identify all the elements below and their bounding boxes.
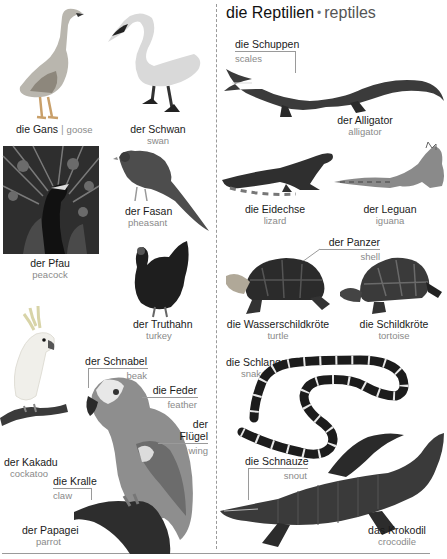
feather-leader-line: [142, 397, 198, 398]
goose-english: goose: [67, 124, 93, 135]
scales-leader-line: [235, 51, 295, 52]
alligator-illustration: [222, 55, 447, 120]
cockatoo-english: cockatoo: [10, 468, 48, 480]
turtle-shell-german: der Panzer: [320, 236, 380, 248]
iguana-illustration: [330, 138, 447, 194]
tortoise-german: die Schildkröte: [348, 318, 440, 330]
tortoise-illustration: [338, 252, 447, 316]
lizard-english: lizard: [240, 215, 310, 227]
cockatoo-illustration: [0, 300, 70, 425]
tortoise-english: tortoise: [348, 330, 440, 342]
pheasant-german: der Fasan: [125, 205, 172, 217]
parrot-wing-english: wing: [170, 445, 208, 457]
cockatoo-german: der Kakadu: [4, 456, 58, 468]
turkey-illustration: [125, 237, 195, 317]
page-bottom-rule: [2, 553, 430, 554]
pheasant-english: pheasant: [128, 217, 167, 229]
parrot-wing-german-line1: der: [170, 418, 208, 430]
peacock-german: der Pfau: [20, 257, 80, 269]
claw-leader-line: [53, 488, 91, 489]
goose-german: die Gans: [16, 123, 58, 135]
parrot-wing-german-line2: Flügel: [170, 430, 208, 442]
swan-illustration: [102, 8, 207, 118]
lizard-german: die Eidechse: [240, 203, 310, 215]
parrot-german: der Papagei: [22, 524, 79, 536]
alligator-scales-german: die Schuppen: [235, 38, 299, 50]
parrot-claw-english: claw: [53, 490, 72, 502]
goose-illustration: [10, 5, 90, 120]
turtle-english: turtle: [222, 330, 334, 342]
peacock-english: peacock: [20, 269, 80, 281]
section-title-english: reptiles: [324, 4, 376, 21]
iguana-german: der Leguan: [355, 203, 425, 215]
parrot-feather-english: feather: [140, 399, 197, 411]
iguana-english: iguana: [355, 215, 425, 227]
turtle-illustration: [222, 250, 334, 316]
crocodile-german: das Krokodil: [357, 524, 437, 536]
goose-label: die Gans | goose: [16, 123, 93, 136]
parrot-feather-german: die Feder: [140, 384, 197, 396]
alligator-german: der Alligator: [325, 114, 405, 126]
wing-leader-line: [158, 443, 208, 444]
column-divider: [216, 4, 217, 549]
section-title-german: die Reptilien: [226, 4, 314, 21]
turkey-german: der Truthahn: [133, 318, 193, 330]
parrot-beak-english: beak: [85, 370, 147, 382]
goose-separator: |: [61, 123, 64, 135]
swan-german: der Schwan: [128, 123, 188, 135]
parrot-claw-german: die Kralle: [53, 475, 97, 487]
alligator-english: alligator: [325, 126, 405, 138]
crocodile-english: crocodile: [357, 536, 437, 548]
bullet-separator: •: [314, 6, 324, 20]
section-title: die Reptilien•reptiles: [226, 3, 376, 23]
parrot-english: parrot: [36, 536, 61, 548]
turkey-english: turkey: [146, 330, 172, 342]
peacock-illustration: [3, 146, 99, 254]
claw-leader-line-vertical: [91, 488, 92, 500]
parrot-beak-german: der Schnabel: [85, 355, 147, 367]
turtle-german: die Wasserschildkröte: [222, 318, 334, 330]
beak-leader-line: [88, 368, 148, 369]
